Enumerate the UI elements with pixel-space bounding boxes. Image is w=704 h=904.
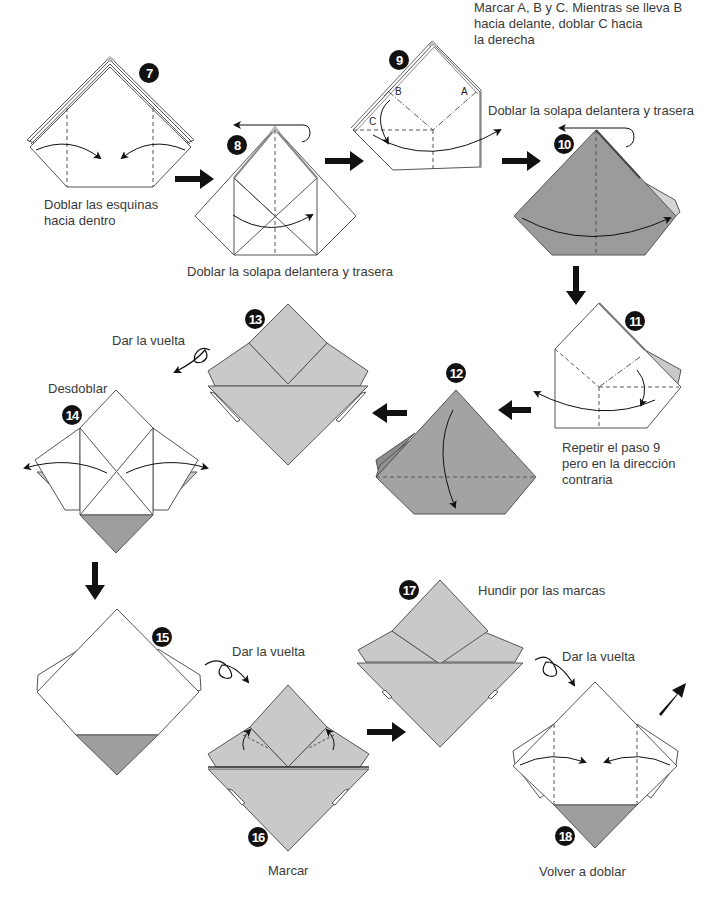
sequence-arrow-icon	[367, 722, 406, 742]
step-number-badge: 9	[389, 50, 409, 70]
step-number-badge: 8	[227, 135, 247, 155]
step-17-caption: Hundir por las marcas	[478, 583, 605, 599]
step-18-caption: Volver a doblar	[539, 864, 626, 880]
step-number-badge: 11	[625, 311, 645, 331]
sequence-arrow-icon	[566, 266, 586, 305]
caption-line: hacia delante, doblar C hacia	[474, 16, 682, 32]
continue-arrow-icon	[659, 683, 686, 716]
turn-over-icon	[175, 348, 210, 372]
step-13-caption: Dar la vuelta	[112, 333, 185, 349]
sequence-arrow-icon	[498, 400, 531, 420]
step-number-badge: 13	[245, 309, 265, 329]
step-14-caption: Desdoblar	[48, 381, 107, 397]
step-number-badge: 10	[554, 134, 574, 154]
point-label-c: C	[369, 116, 376, 127]
step-17-figure	[357, 580, 523, 747]
step-10-caption: Doblar la solapa delantera y trasera	[488, 103, 694, 119]
caption-line: pero en la dirección	[562, 456, 675, 472]
step-14-figure	[25, 390, 207, 553]
step-8-figure	[195, 125, 356, 255]
point-label-b: B	[395, 86, 402, 97]
caption-line: contraria	[562, 472, 675, 488]
step-11-figure	[535, 303, 681, 428]
sequence-arrow-icon	[372, 403, 407, 423]
step-9-figure	[351, 40, 500, 170]
step-number-badge: 17	[399, 580, 419, 600]
step-number-badge: 7	[139, 63, 159, 83]
step-number-badge: 12	[446, 363, 466, 383]
step-number-badge: 18	[555, 826, 575, 846]
step-16-figure	[208, 685, 369, 851]
step-number-badge: 16	[248, 827, 268, 847]
step-7-figure	[27, 56, 194, 187]
sequence-arrow-icon	[502, 151, 541, 171]
caption-line: la derecha	[474, 32, 682, 48]
caption-line: hacia dentro	[44, 213, 158, 229]
caption-line: Marcar A, B y C. Mientras se lleva B	[474, 0, 682, 16]
step-8-caption: Doblar la solapa delantera y trasera	[187, 264, 393, 280]
step-9-caption: Marcar A, B y C. Mientras se lleva B hac…	[474, 0, 682, 48]
step-18-pre-caption: Dar la vuelta	[562, 649, 635, 665]
step-15-figure	[37, 609, 201, 775]
step-16-caption: Marcar	[268, 863, 308, 879]
caption-line: Doblar las esquinas	[44, 197, 158, 213]
caption-line: Repetir el paso 9	[562, 440, 675, 456]
step-number-badge: 14	[62, 405, 82, 425]
step-11-caption: Repetir el paso 9 pero en la dirección c…	[562, 440, 675, 488]
step-10-figure	[514, 128, 680, 255]
step-number-badge: 15	[152, 627, 172, 647]
step-15-caption: Dar la vuelta	[232, 644, 305, 660]
sequence-arrow-icon	[325, 151, 364, 171]
step-18-figure	[513, 682, 678, 848]
step-13-figure	[208, 304, 368, 465]
sequence-arrow-icon	[175, 169, 214, 189]
step-7-caption: Doblar las esquinas hacia dentro	[44, 197, 158, 229]
sequence-arrow-icon	[85, 562, 105, 600]
turn-over-icon	[205, 661, 248, 682]
point-label-a: A	[461, 86, 468, 97]
